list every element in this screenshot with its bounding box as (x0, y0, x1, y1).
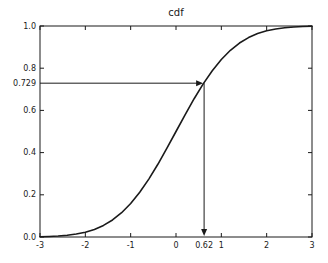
x-tick-label: -3 (36, 241, 44, 250)
y-tick-label: 0.8 (23, 64, 36, 73)
axis-tick-labels: -3-2-101230.00.20.40.60.81.0 (23, 22, 314, 251)
x-tick-label: -2 (81, 241, 89, 250)
x-tick-label: -1 (127, 241, 135, 250)
vertical-arrow-head (201, 229, 207, 236)
x-tick-label: 3 (309, 241, 314, 250)
cdf-plot-canvas: cdf -3-2-101230.00.20.40.60.81.0 0.7290.… (0, 0, 328, 263)
y-tick-label: 0.6 (23, 106, 36, 115)
x-tick-label: 1 (219, 241, 224, 250)
y-tick-label: 0.4 (23, 148, 36, 157)
normal-cdf-curve (40, 26, 312, 236)
x-tick-label: 2 (264, 241, 269, 250)
annotation-y-value-label: 0.729 (13, 79, 36, 88)
x-tick-label: 0 (173, 241, 178, 250)
y-tick-label: 0.2 (23, 190, 36, 199)
cdf-figure: cdf -3-2-101230.00.20.40.60.81.0 0.7290.… (0, 0, 328, 263)
y-tick-label: 1.0 (23, 22, 36, 31)
cdf-curve-group (40, 26, 312, 236)
plot-title: cdf (168, 7, 184, 18)
annotation-arrows: 0.7290.62 (13, 79, 213, 250)
y-tick-label: 0.0 (23, 233, 36, 242)
annotation-x-value-label: 0.62 (195, 241, 213, 250)
